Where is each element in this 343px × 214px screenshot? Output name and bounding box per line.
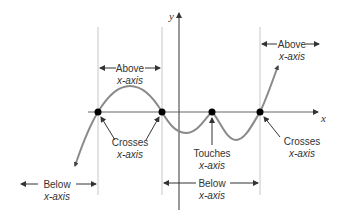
svg-text:Below: Below <box>43 179 71 190</box>
svg-text:x-axis: x-axis <box>198 190 225 201</box>
svg-text:x-axis: x-axis <box>116 75 143 86</box>
svg-text:x-axis: x-axis <box>116 149 143 160</box>
annotation-above-2: Above x-axis <box>262 39 319 62</box>
svg-text:Crosses: Crosses <box>284 136 321 147</box>
svg-text:x-axis: x-axis <box>198 160 225 171</box>
polynomial-diagram: x y Above x-axis Above x-axis Crosses x-… <box>0 0 343 214</box>
svg-text:Touches: Touches <box>193 148 230 159</box>
svg-text:x-axis: x-axis <box>288 148 315 159</box>
y-axis-label: y <box>168 10 174 22</box>
annotation-below-1: Below x-axis <box>21 179 96 202</box>
intercept-point-4 <box>257 109 264 116</box>
annotation-crosses-1: Crosses x-axis <box>101 117 159 160</box>
annotation-below-2: Below x-axis <box>164 178 258 201</box>
svg-text:Above: Above <box>278 39 307 50</box>
annotation-above-1: Above x-axis <box>100 63 160 86</box>
svg-text:x-axis: x-axis <box>278 51 305 62</box>
intercept-point-3 <box>209 109 216 116</box>
intercept-point-1 <box>95 109 102 116</box>
intercept-point-2 <box>159 109 166 116</box>
polynomial-curve <box>77 66 278 160</box>
svg-text:Crosses: Crosses <box>112 137 149 148</box>
svg-text:x-axis: x-axis <box>43 191 70 202</box>
svg-text:Above: Above <box>116 63 145 74</box>
svg-text:Below: Below <box>198 178 226 189</box>
x-axis-label: x <box>320 112 326 124</box>
annotation-crosses-2: Crosses x-axis <box>264 117 320 159</box>
